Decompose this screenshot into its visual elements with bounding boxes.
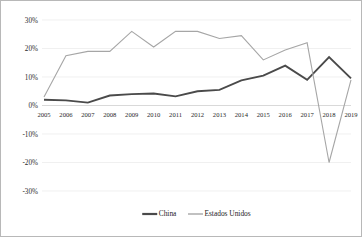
y-axis-tick-labels: 30%20%10%0%-10%-20%-30% <box>22 17 38 196</box>
x-axis-tick-labels: 2005200620072008200920102011201220132014… <box>37 111 358 118</box>
chart-container: 30%20%10%0%-10%-20%-30% 2005200620072008… <box>0 0 362 237</box>
x-axis-tick-label: 2012 <box>191 111 204 118</box>
y-axis-tick-label: 0% <box>28 102 38 110</box>
x-axis-tick-label: 2018 <box>322 111 336 118</box>
line-chart: 30%20%10%0%-10%-20%-30% 2005200620072008… <box>1 1 362 237</box>
y-axis-tick-label: -10% <box>22 131 38 139</box>
series-line-china <box>44 57 351 103</box>
x-axis-tick-label: 2013 <box>213 111 227 118</box>
x-axis-tick-label: 2006 <box>59 111 73 118</box>
x-axis-tick-label: 2015 <box>257 111 271 118</box>
chart-legend: ChinaEstados Unidos <box>142 209 251 218</box>
data-series <box>44 31 351 162</box>
gridlines <box>42 20 351 191</box>
legend-label-estados-unidos: Estados Unidos <box>204 209 250 218</box>
x-axis-tick-label: 2011 <box>169 111 182 118</box>
x-axis-tick-label: 2016 <box>279 111 293 118</box>
x-axis-tick-label: 2007 <box>81 111 95 118</box>
y-axis-tick-label: -20% <box>22 159 38 167</box>
y-axis-tick-label: 30% <box>25 17 38 25</box>
legend-label-china: China <box>159 209 177 218</box>
x-axis-tick-label: 2017 <box>301 111 315 118</box>
x-axis-tick-label: 2010 <box>147 111 161 118</box>
x-axis-tick-label: 2005 <box>37 111 51 118</box>
x-axis-tick-label: 2009 <box>125 111 139 118</box>
y-axis-tick-label: -30% <box>22 188 38 196</box>
series-line-estados-unidos <box>44 31 351 162</box>
x-axis-tick-label: 2019 <box>344 111 358 118</box>
x-axis-tick-label: 2008 <box>103 111 117 118</box>
y-axis-tick-label: 10% <box>25 74 38 82</box>
x-axis-tick-label: 2014 <box>235 111 249 118</box>
y-axis-tick-label: 20% <box>25 45 38 53</box>
